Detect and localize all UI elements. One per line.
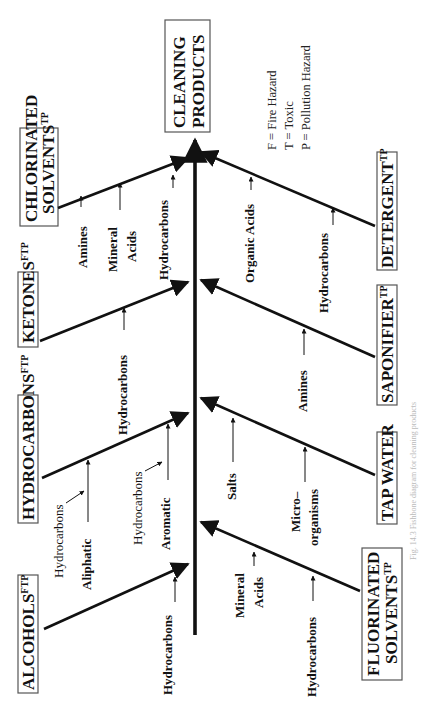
category-fluorinated-solvents: FLUORINATED SOLVENTSTP Mineral Acids Hyd… [201, 522, 402, 697]
cause-hydrocarbons: Hydrocarbons [160, 615, 175, 695]
legend-fire: F = Fire Hazard [265, 70, 279, 150]
cause-hydrocarbons: Hydrocarbons [304, 617, 319, 697]
cause-aliphatic: Aliphatic [79, 538, 94, 590]
cause-aromatic-hydrocarbons: Hydrocarbons [130, 471, 145, 545]
figure-caption: Fig. 14.3 Fishbone diagram for cleaning … [409, 402, 418, 560]
cause-organic-acids: Organic Acids [242, 204, 257, 283]
category-label-line2: SOLVENTSTP [39, 112, 58, 214]
cause-aromatic: Aromatic [158, 497, 173, 550]
cause-hydrocarbons: Hydrocarbons [115, 355, 130, 435]
effect-label-line2: PRODUCTS [189, 34, 208, 128]
category-label: TAP WATER [378, 423, 397, 521]
cause-sub-arrow [66, 491, 84, 503]
legend-pollution: P = Pollution Hazard [299, 44, 313, 150]
cause-salts: Salts [224, 473, 239, 500]
category-saponifier: SAPONIFIERTP Amines [201, 280, 397, 412]
cause-micro: Micro– [288, 491, 303, 532]
cause-sub-arrow [145, 462, 162, 471]
branch-arrow [201, 522, 360, 591]
cause-acids: Acids [251, 577, 266, 608]
category-tap-water: TAP WATER Salts Micro– organisms [201, 398, 397, 546]
effect-box: CLEANING PRODUCTS [165, 20, 210, 132]
branch-arrow [201, 398, 375, 475]
branch-arrow [40, 282, 188, 341]
effect-label-line1: CLEANING [170, 36, 189, 128]
category-label: FLUORINATED [364, 552, 383, 676]
category-label: SAPONIFIERTP [378, 285, 397, 403]
category-detergent: DETERGENTTP Organic Acids Hydrocarbons [201, 148, 397, 313]
cause-hydrocarbons: Hydrocarbons [156, 200, 171, 280]
category-hydrocarbons: HYDROCARBONSFTP Aliphatic Hydrocarbons A… [18, 355, 188, 590]
cause-amines: Amines [295, 370, 310, 412]
cause-mineral: Mineral [105, 227, 120, 272]
branch-arrow [201, 152, 375, 226]
cause-organisms: organisms [306, 489, 321, 546]
cause-hydrocarbons: Hydrocarbons [316, 233, 331, 313]
cause-mineral: Mineral [232, 573, 247, 618]
legend: F = Fire Hazard T = Toxic P = Pollution … [265, 44, 313, 150]
category-alcohols: ALCOHOLSFTP Hydrocarbons [18, 564, 188, 695]
category-label-line2: SOLVENTSTP [382, 562, 401, 664]
category-label: KETONESFTP [19, 242, 38, 343]
category-label: DETERGENTTP [378, 148, 397, 268]
branch-arrow [201, 280, 375, 357]
cause-aliphatic-hydrocarbons: Hydrocarbons [51, 504, 66, 578]
cause-amines: Amines [75, 226, 90, 268]
cause-acids: Acids [124, 231, 139, 262]
fishbone-diagram: CLEANING PRODUCTS F = Fire Hazard T = To… [0, 0, 423, 726]
category-label: HYDROCARBONSFTP [19, 355, 38, 520]
legend-toxic: T = Toxic [282, 101, 296, 150]
category-chlorinated-solvents: CHLORINATED SOLVENTSTP Amines Mineral Ac… [20, 95, 188, 280]
